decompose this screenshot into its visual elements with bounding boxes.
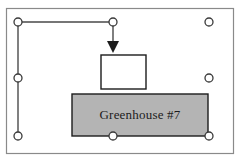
handle-top-right[interactable] xyxy=(205,18,213,26)
handle-top-left[interactable] xyxy=(14,18,22,26)
handle-middle-left[interactable] xyxy=(14,74,22,82)
elbow-arrow-connector[interactable] xyxy=(18,22,113,43)
white-rectangle-node[interactable] xyxy=(101,55,146,89)
handle-middle-right[interactable] xyxy=(205,74,213,82)
handle-top-center[interactable] xyxy=(109,18,117,26)
diagram-svg-layer xyxy=(0,0,244,168)
handle-bottom-right[interactable] xyxy=(205,132,213,140)
handle-bottom-left[interactable] xyxy=(14,132,22,140)
handle-bottom-center[interactable] xyxy=(109,132,117,140)
arrowhead-down-icon xyxy=(107,41,119,53)
greenhouse-box[interactable] xyxy=(72,94,208,136)
diagram-canvas[interactable]: Greenhouse #7 xyxy=(0,0,244,168)
